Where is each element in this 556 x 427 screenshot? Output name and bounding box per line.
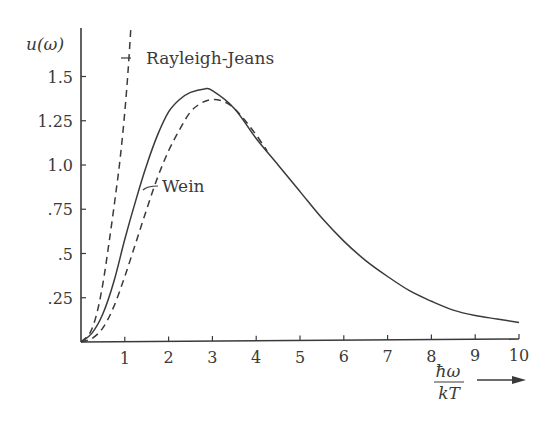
planck-curve [81, 88, 519, 342]
wein-label: Wein [162, 176, 205, 196]
x-axis-label-numerator: ħω [436, 361, 461, 381]
wein-curve [81, 99, 267, 342]
y-tick-label: 1.25 [37, 112, 73, 131]
y-tick-label: .75 [48, 200, 73, 219]
arrow-icon [512, 376, 526, 384]
x-tick-label: 2 [164, 348, 174, 367]
x-tick-label: 9 [470, 346, 480, 365]
x-tick-label: 10 [509, 346, 529, 365]
x-tick-label: 3 [207, 348, 217, 367]
x-axis-label: ħω kT [434, 361, 526, 403]
y-tick-label: .5 [58, 245, 73, 264]
x-tick-label: 6 [339, 347, 349, 366]
wein-leader [143, 186, 158, 190]
rayleigh-jeans-curve [81, 27, 131, 342]
x-axis-label-denominator: kT [438, 383, 461, 403]
x-tick-label: 4 [251, 348, 261, 367]
x-tick-label: 1 [120, 349, 130, 368]
chart: 12345678910.25.5.751.01.251.5 u(ω) Rayle… [0, 0, 556, 427]
x-tick-label: 7 [383, 347, 393, 366]
y-tick-label: .25 [48, 289, 73, 308]
rayleigh-jeans-label: Rayleigh-Jeans [146, 48, 274, 68]
axes [81, 28, 519, 342]
x-tick-label: 5 [295, 348, 305, 367]
y-axis-label: u(ω) [26, 34, 64, 54]
y-tick-label: 1.5 [48, 68, 73, 87]
curves [81, 27, 519, 342]
y-tick-label: 1.0 [48, 156, 73, 175]
ticks: 12345678910.25.5.751.01.251.5 [37, 68, 529, 368]
